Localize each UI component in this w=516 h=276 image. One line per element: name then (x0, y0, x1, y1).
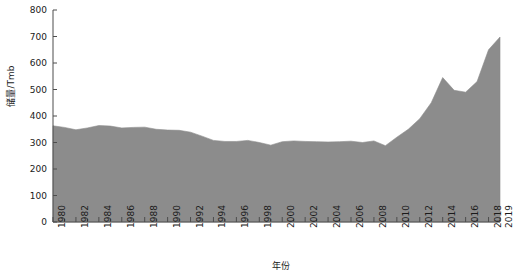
area-fill (53, 37, 500, 222)
x-tick-label: 2004 (332, 205, 342, 228)
y-tick-label: 0 (7, 217, 47, 227)
y-tick-label: 300 (7, 138, 47, 148)
x-tick-label: 2008 (378, 205, 388, 228)
chart-figure: 储量/Tmb 年份 0100200300400500600700800 1980… (0, 0, 516, 276)
x-tick-label: 1980 (57, 205, 67, 228)
x-tick-label: 1998 (263, 205, 273, 228)
y-tick-label: 100 (7, 191, 47, 201)
y-tick-label: 200 (7, 164, 47, 174)
y-tick-label: 800 (7, 5, 47, 15)
x-tick-label: 2010 (401, 205, 411, 228)
x-tick-label: 1982 (80, 205, 90, 228)
x-tick-label: 2006 (355, 205, 365, 228)
y-tick-label: 400 (7, 111, 47, 121)
y-tick-label: 700 (7, 32, 47, 42)
y-tick-label: 500 (7, 85, 47, 95)
area-series (53, 37, 500, 222)
y-tick-label: 600 (7, 58, 47, 68)
x-tick-label: 1994 (217, 205, 227, 228)
x-tick-label: 2012 (424, 205, 434, 228)
x-tick-label: 1984 (103, 205, 113, 228)
x-tick-label: 1990 (172, 205, 182, 228)
x-axis-tick-labels: 1980198219841986198819901992199419961998… (0, 228, 516, 274)
x-tick-label: 2016 (470, 205, 480, 228)
x-tick-label: 1992 (195, 205, 205, 228)
x-tick-label: 2019 (504, 205, 514, 228)
x-tick-label: 1986 (126, 205, 136, 228)
x-tick-label: 1996 (240, 205, 250, 228)
x-tick-label: 2002 (309, 205, 319, 228)
x-tick-label: 2014 (447, 205, 457, 228)
x-tick-label: 2000 (286, 205, 296, 228)
x-tick-label: 2018 (493, 205, 503, 228)
x-tick-label: 1988 (149, 205, 159, 228)
